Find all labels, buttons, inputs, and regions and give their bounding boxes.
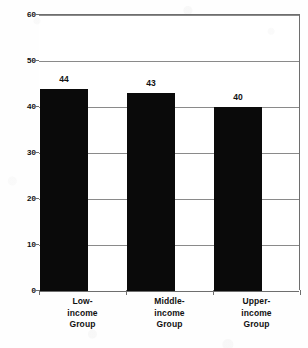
bar-value-label: 40 bbox=[214, 92, 262, 102]
x-category-label: Upper-incomeGroup bbox=[201, 296, 308, 331]
x-category-tick bbox=[126, 290, 127, 295]
y-tick-mark-20 bbox=[33, 198, 39, 199]
bar bbox=[127, 93, 175, 291]
y-tick-mark-50 bbox=[33, 60, 39, 61]
gridline-0 bbox=[39, 291, 299, 292]
y-tick-mark-30 bbox=[33, 152, 39, 153]
x-category-label-line: income bbox=[201, 308, 308, 320]
bar-value-label: 43 bbox=[127, 78, 175, 88]
gridline-60 bbox=[39, 15, 299, 16]
x-category-label-line: Group bbox=[201, 319, 308, 331]
gridline-50 bbox=[39, 61, 299, 62]
bar-value-label: 44 bbox=[40, 74, 88, 84]
bar bbox=[40, 89, 88, 291]
bar bbox=[214, 107, 262, 291]
bar-chart: Average Percentage of Minutes 0102030405… bbox=[0, 0, 308, 348]
plot-area bbox=[39, 14, 300, 290]
y-tick-mark-10 bbox=[33, 244, 39, 245]
x-category-tick bbox=[39, 290, 40, 295]
y-tick-mark-40 bbox=[33, 106, 39, 107]
x-category-tick bbox=[300, 290, 301, 295]
x-category-label-line: Upper- bbox=[201, 296, 308, 308]
x-category-tick bbox=[213, 290, 214, 295]
y-tick-mark-60 bbox=[33, 14, 39, 15]
